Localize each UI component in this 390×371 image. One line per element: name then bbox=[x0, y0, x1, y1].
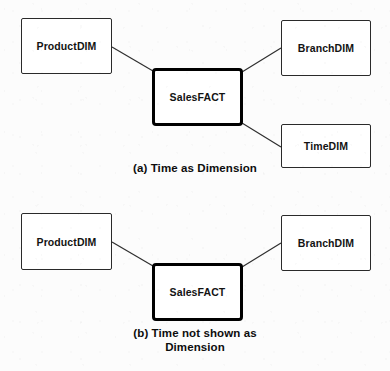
caption-line: (a) Time as Dimension bbox=[0, 161, 390, 175]
edge-product-to-sales-a bbox=[112, 47, 153, 71]
node-sales-fact-b[interactable]: SalesFACT bbox=[152, 263, 243, 321]
caption-panel-b: (b) Time not shown as Dimension bbox=[0, 326, 390, 354]
caption-line: Dimension bbox=[0, 340, 390, 354]
caption-panel-a: (a) Time as Dimension bbox=[0, 161, 390, 175]
node-label: BranchDIM bbox=[298, 42, 354, 54]
node-label: SalesFACT bbox=[170, 286, 226, 298]
node-label: TimeDIM bbox=[304, 140, 348, 152]
edge-sales-to-time-a bbox=[242, 123, 281, 147]
node-label: SalesFACT bbox=[170, 91, 226, 103]
node-label: ProductDIM bbox=[37, 40, 97, 52]
node-sales-fact-a[interactable]: SalesFACT bbox=[152, 68, 243, 126]
caption-line: (b) Time not shown as bbox=[0, 326, 390, 340]
node-label: BranchDIM bbox=[298, 237, 354, 249]
node-branch-dim-b[interactable]: BranchDIM bbox=[281, 215, 371, 271]
node-label: ProductDIM bbox=[37, 236, 97, 248]
node-product-dim-a[interactable]: ProductDIM bbox=[21, 18, 112, 74]
node-product-dim-b[interactable]: ProductDIM bbox=[21, 213, 112, 270]
edge-sales-to-branch-a bbox=[242, 48, 281, 72]
edge-product-to-sales-b bbox=[112, 242, 153, 266]
node-branch-dim-a[interactable]: BranchDIM bbox=[281, 20, 371, 76]
edge-sales-to-branch-b bbox=[242, 243, 281, 267]
diagram-canvas: ProductDIM SalesFACT BranchDIM TimeDIM (… bbox=[0, 0, 390, 371]
